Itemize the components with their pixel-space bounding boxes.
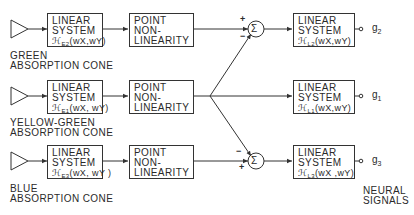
box-text: SYSTEM [298,93,354,103]
output-terminal-g2 [359,27,363,31]
label-line: ABSORPTION CONE [10,194,113,204]
summer-top-symbol: Σ [251,24,258,34]
box-text: LINEARITY [134,103,193,113]
transfer-function: ℋL3(wX ,wY) [298,168,354,181]
cone-label-blue: BLUE ABSORPTION CONE [10,184,113,204]
box-text: SYSTEM [298,26,354,36]
neural-signals-label: NEURAL SIGNALS [363,186,409,206]
transfer-function: ℋE2(wX,wY) [52,36,102,49]
output-terminal-g1 [359,94,363,98]
cone-label-green: GREEN ABSORPTION CONE [10,51,113,71]
transfer-function: ℋL1(wX,wY) [298,103,354,116]
point-nonlinearity-green: POINT NON- LINEARITY [129,13,194,47]
func-args: (wX,wY) [315,103,351,113]
box-text: LINEARITY [134,36,193,46]
output-g2: g2 [372,22,381,35]
cone-triangle-green [11,20,28,38]
func-subscript: L2 [307,41,314,47]
linear-system-l1: LINEAR SYSTEM ℋL1(wX,wY) [293,80,355,114]
func-args: (wX,wY) [70,36,106,46]
func-symbol: ℋ [298,168,307,178]
func-subscript: L3 [307,173,314,179]
func-subscript: E2 [61,41,69,47]
func-args: (wX, wY) [70,103,109,113]
summer-bottom-minus: − [236,146,241,156]
linear-system-e3: LINEAR SYSTEM ℋE3(wX, wY ) [47,145,103,179]
summer-bottom-symbol: Σ [251,156,258,166]
box-text: SYSTEM [298,158,354,168]
summer-top-plus: + [240,14,245,24]
box-text: LINEARITY [134,168,193,178]
output-g3: g3 [372,154,381,167]
cone-label-yellow-green: YELLOW-GREEN ABSORPTION CONE [10,118,113,138]
summer-bottom-plus: + [239,162,244,172]
box-text: SYSTEM [52,158,102,168]
transfer-function: ℋE1(wX, wY) [52,103,102,116]
output-subscript: 3 [378,160,382,167]
func-symbol: ℋ [52,36,61,46]
func-args: (wX,wY) [315,36,351,46]
summer-top-minus: − [240,31,245,41]
output-g1: g1 [372,89,381,102]
cone-triangle-yellow-green [11,87,28,105]
point-nonlinearity-blue: POINT NON- LINEARITY [129,145,194,179]
box-text: SYSTEM [52,26,102,36]
transfer-function: ℋL2(wX,wY) [298,36,354,49]
cone-triangle-blue [11,152,28,170]
label-line: ABSORPTION CONE [10,128,113,138]
func-subscript: E1 [61,108,69,114]
func-subscript: L1 [307,108,314,114]
func-args: (wX, wY ) [70,168,112,178]
label-line: SIGNALS [363,196,409,206]
linear-system-l2: LINEAR SYSTEM ℋL2(wX,wY) [293,13,355,47]
linear-system-e2: LINEAR SYSTEM ℋE2(wX,wY) [47,13,103,47]
output-terminal-g3 [359,159,363,163]
func-symbol: ℋ [298,103,307,113]
func-args: (wX ,wY) [315,168,354,178]
box-text: SYSTEM [52,93,102,103]
output-subscript: 1 [378,95,382,102]
func-symbol: ℋ [298,36,307,46]
output-subscript: 2 [378,28,382,35]
point-nonlinearity-yellow-green: POINT NON- LINEARITY [129,80,194,114]
func-symbol: ℋ [52,103,61,113]
linear-system-e1: LINEAR SYSTEM ℋE1(wX, wY) [47,80,103,114]
func-symbol: ℋ [52,168,61,178]
label-line: ABSORPTION CONE [10,61,113,71]
func-subscript: E3 [61,173,69,179]
linear-system-l3: LINEAR SYSTEM ℋL3(wX ,wY) [293,145,355,179]
transfer-function: ℋE3(wX, wY ) [52,168,102,181]
